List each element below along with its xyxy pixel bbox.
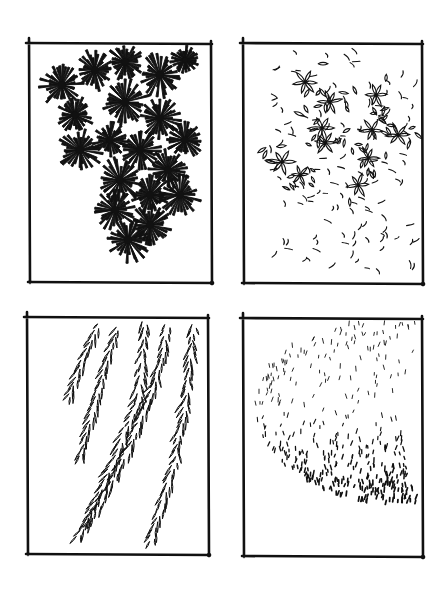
- panel-stipple-canopy: [240, 313, 425, 559]
- leaf-rosettes: [258, 48, 422, 274]
- stipple-ticks: [255, 321, 417, 505]
- needle-clusters: [38, 45, 201, 263]
- willow-branches: [63, 322, 199, 549]
- panel-broadleaf-sparse: [240, 38, 425, 286]
- panel-willow-strands: [24, 312, 211, 557]
- panel-pine-clusters: [26, 38, 214, 285]
- frame-border: [240, 38, 424, 285]
- illustration-canvas: [0, 0, 446, 597]
- frame-border: [240, 313, 424, 558]
